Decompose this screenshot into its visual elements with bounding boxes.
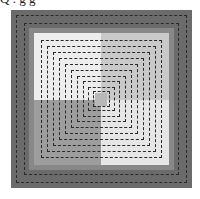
caption-text: Q . g g bbox=[0, 0, 200, 5]
outer-frame bbox=[11, 10, 192, 188]
dashed-ring-10 bbox=[93, 91, 110, 107]
